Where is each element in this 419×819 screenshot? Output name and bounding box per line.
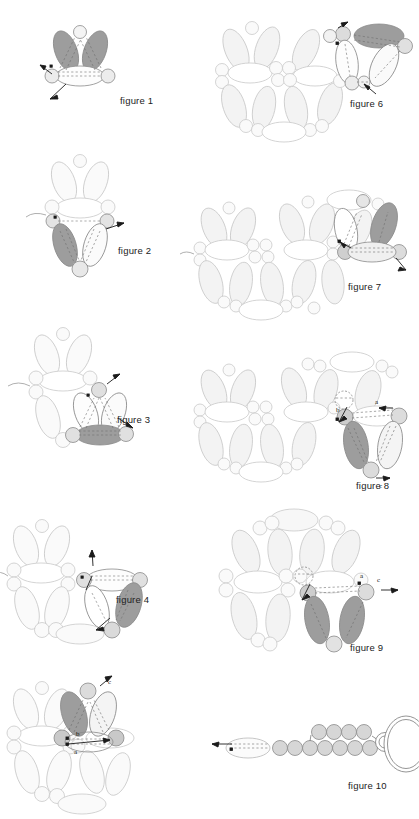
figure-8-illustration: a b c [196,352,419,497]
fig5-label-c: c [108,678,111,686]
figure-1-label: figure 1 [120,95,153,106]
figure-6-illustration [212,2,419,142]
figure-4-illustration [0,490,205,640]
figure-1-illustration [0,0,200,130]
figure-10-illustration [210,700,419,810]
figure-3-illustration [0,318,205,458]
figure-3-label: figure 3 [117,414,150,425]
figure-9-illustration: a c [216,500,419,650]
figure-7-label: figure 7 [348,281,381,292]
figure-9-label: figure 9 [350,642,383,653]
figure-2-illustration [0,145,200,285]
fig5-label-b: b [76,730,80,738]
figure-6-label: figure 6 [350,98,383,109]
figure-2-label: figure 2 [118,245,151,256]
fig9-label-c: c [377,576,380,584]
figure-5-illustration: b a c [0,672,205,819]
figure-10-label: figure 10 [348,780,387,791]
figure-4-label: figure 4 [116,594,149,605]
figure-8-label: figure 8 [356,480,389,491]
diagram-page: figure 1 [0,0,419,819]
fig8-label-b: b [336,406,340,414]
figure-7-illustration [196,190,419,340]
